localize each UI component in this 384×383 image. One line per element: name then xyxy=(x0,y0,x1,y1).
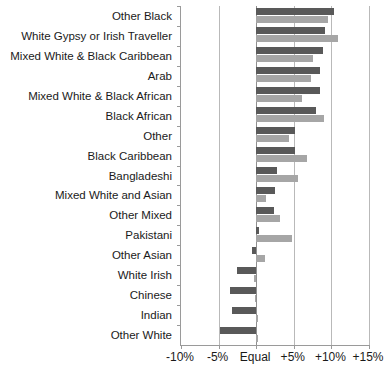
bar-series_1 xyxy=(256,107,316,114)
category-label: Chinese xyxy=(130,289,172,301)
category-tick-mark xyxy=(177,225,181,226)
value-axis-label: +10% xyxy=(315,350,346,364)
gridline-15 xyxy=(369,6,370,345)
category-tick-mark xyxy=(177,265,181,266)
value-axis-label: -10% xyxy=(166,350,194,364)
category-tick-mark xyxy=(177,205,181,206)
bar-series_1 xyxy=(256,127,294,134)
value-axis-label: +5% xyxy=(281,350,305,364)
category-label: Other Black xyxy=(112,10,172,22)
bar-series_2 xyxy=(256,95,302,102)
bar-series_1 xyxy=(256,47,323,54)
category-tick-mark xyxy=(177,285,181,286)
category-label: Black Caribbean xyxy=(88,150,172,162)
bar-series_2 xyxy=(256,255,265,262)
category-label: Other Asian xyxy=(112,249,172,261)
category-tick-mark xyxy=(177,6,181,7)
bar-series_2 xyxy=(256,195,266,202)
category-label: Pakistani xyxy=(125,229,172,241)
bar-series_2 xyxy=(254,275,256,282)
bar-series_1 xyxy=(256,27,325,34)
bar-series_1 xyxy=(252,247,256,254)
category-tick-mark xyxy=(177,26,181,27)
value-axis-label: -5% xyxy=(207,350,228,364)
category-tick-mark xyxy=(177,46,181,47)
bar-series_1 xyxy=(220,327,256,334)
bar-series_2 xyxy=(256,115,324,122)
bar-series_2 xyxy=(256,315,258,322)
bar-series_2 xyxy=(256,35,338,42)
plot-area xyxy=(180,6,369,346)
bar-series_1 xyxy=(256,167,277,174)
category-tick-mark xyxy=(177,305,181,306)
bar-series_2 xyxy=(255,295,256,302)
category-tick-mark xyxy=(177,106,181,107)
gridline-5 xyxy=(219,6,220,345)
category-label: Other White xyxy=(111,329,172,341)
bar-series_1 xyxy=(256,67,320,74)
bar-series_2 xyxy=(256,215,280,222)
tick-mark xyxy=(256,345,257,349)
category-tick-mark xyxy=(177,86,181,87)
category-label: Mixed White & Black African xyxy=(28,90,172,102)
value-axis: -10%-5%Equal+5%+10%+15% xyxy=(0,350,380,370)
category-tick-mark xyxy=(177,166,181,167)
category-tick-mark xyxy=(177,245,181,246)
category-tick-mark xyxy=(177,66,181,67)
gridline-10 xyxy=(331,6,332,345)
category-tick-mark xyxy=(177,325,181,326)
tick-mark xyxy=(331,345,332,349)
bar-series_2 xyxy=(256,75,311,82)
bar-series_1 xyxy=(230,287,256,294)
category-tick-mark xyxy=(177,126,181,127)
category-label: Mixed White and Asian xyxy=(55,189,172,201)
category-label: White Gypsy or Irish Traveller xyxy=(21,30,172,42)
category-label: Black African xyxy=(106,110,172,122)
category-label: Mixed White & Black Caribbean xyxy=(10,50,172,62)
bar-series_1 xyxy=(256,8,333,15)
category-axis: Other BlackWhite Gypsy or Irish Travelle… xyxy=(0,0,178,345)
bar-series_2 xyxy=(256,235,291,242)
bar-series_1 xyxy=(256,207,274,214)
value-axis-label: Equal xyxy=(240,350,271,364)
category-label: Bangladeshi xyxy=(109,170,172,182)
bar-series_2 xyxy=(256,135,288,142)
bar-series_1 xyxy=(256,87,320,94)
category-tick-mark xyxy=(177,185,181,186)
category-label: Arab xyxy=(148,70,172,82)
tick-mark xyxy=(181,345,182,349)
tick-mark xyxy=(294,345,295,349)
bar-series_2 xyxy=(256,155,307,162)
tick-mark xyxy=(369,345,370,349)
category-label: Indian xyxy=(141,309,172,321)
bar-series_2 xyxy=(256,175,298,182)
bar-series_2 xyxy=(256,16,328,23)
category-label: Other xyxy=(143,130,172,142)
bar-series_1 xyxy=(256,147,295,154)
category-label: Other Mixed xyxy=(109,209,172,221)
category-label: White Irish xyxy=(118,269,172,281)
bar-series_1 xyxy=(237,267,257,274)
bar-series_2 xyxy=(256,335,258,342)
bar-series_2 xyxy=(256,55,313,62)
bar-series_1 xyxy=(232,307,256,314)
tick-mark xyxy=(219,345,220,349)
value-axis-label: +15% xyxy=(352,350,383,364)
category-tick-mark xyxy=(177,146,181,147)
bar-series_1 xyxy=(256,187,275,194)
bar-series_1 xyxy=(256,227,259,234)
